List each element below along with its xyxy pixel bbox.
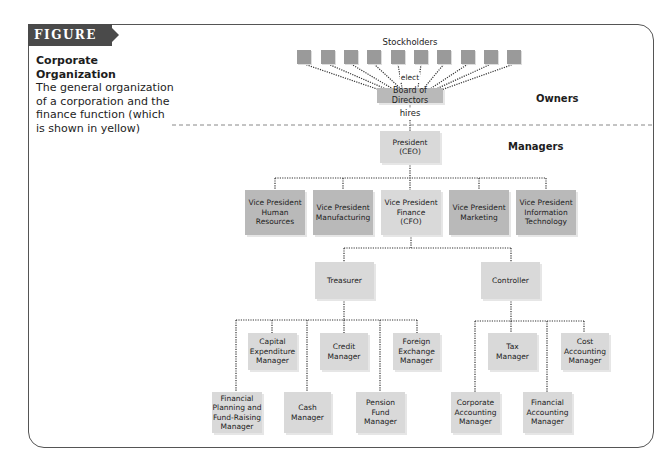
cost-accounting-manager-box: Cost Accounting Manager	[561, 333, 609, 370]
foreign-exchange-manager-box: Foreign Exchange Manager	[393, 333, 440, 370]
stockholder-square	[484, 50, 498, 64]
stockholder-square	[321, 50, 335, 64]
stockholder-square	[461, 50, 475, 64]
vp-marketing-box: Vice President Marketing	[449, 190, 509, 235]
treasurer-box: Treasurer	[315, 262, 374, 299]
vp-information-technology-box: Vice President Information Technology	[516, 190, 576, 235]
president-box: President (CEO)	[380, 131, 440, 163]
stockholders-label: Stockholders	[370, 37, 450, 47]
controller-box: Controller	[481, 262, 540, 299]
pension-fund-manager-box: Pension Fund Manager	[356, 392, 405, 433]
financial-planning-fund-raising-manager-box: Financial Planning and Fund-Raising Mana…	[212, 392, 262, 433]
stockholder-square	[391, 50, 405, 64]
financial-accounting-manager-box: Financial Accounting Manager	[523, 392, 572, 433]
cash-manager-box: Cash Manager	[284, 392, 331, 433]
elect-label: elect	[400, 73, 420, 82]
vp-finance-box: Vice President Finance (CFO)	[381, 190, 441, 235]
board-of-directors-box: Board of Directors	[377, 88, 443, 103]
stockholder-square	[507, 50, 521, 64]
owners-section-label: Owners	[536, 93, 579, 104]
stockholder-square	[414, 50, 428, 64]
stockholder-square	[344, 50, 358, 64]
tax-manager-box: Tax Manager	[488, 333, 537, 370]
vp-manufacturing-box: Vice President Manufacturing	[313, 190, 373, 235]
managers-section-label: Managers	[508, 141, 563, 152]
hires-label: hires	[395, 108, 425, 118]
stockholder-square	[297, 50, 311, 64]
credit-manager-box: Credit Manager	[320, 333, 368, 370]
capital-expenditure-manager-box: Capital Expenditure Manager	[248, 333, 297, 370]
stockholder-square	[367, 50, 381, 64]
stockholder-square	[437, 50, 451, 64]
corporate-accounting-manager-box: Corporate Accounting Manager	[451, 392, 500, 433]
vp-human-resources-box: Vice President Human Resources	[245, 190, 305, 235]
